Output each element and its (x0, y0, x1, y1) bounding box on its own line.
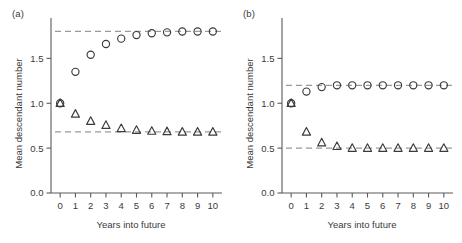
data-point-triangle (163, 127, 171, 135)
x-tick-label: 9 (195, 200, 200, 211)
data-point-triangle (440, 144, 448, 152)
x-tick-label: 8 (180, 200, 185, 211)
y-tick-label: 1.5 (261, 53, 274, 64)
x-tick-label: 1 (304, 200, 309, 211)
data-point-triangle (209, 128, 217, 136)
data-point-circle (318, 84, 325, 91)
data-point-triangle (302, 128, 310, 136)
panel-b-plot: 0.00.51.01.5012345678910 (231, 0, 462, 243)
data-point-triangle (148, 127, 156, 135)
data-point-triangle (87, 117, 95, 125)
x-tick-label: 0 (58, 200, 63, 211)
data-point-triangle (117, 124, 125, 132)
data-point-triangle (71, 110, 79, 118)
data-point-circle (133, 31, 140, 38)
data-point-circle (118, 35, 125, 42)
x-tick-label: 3 (103, 200, 108, 211)
data-point-triangle (379, 144, 387, 152)
data-point-triangle (56, 99, 64, 107)
figure-root: (a) Mean descendant number Years into fu… (0, 0, 462, 243)
x-tick-label: 10 (208, 200, 219, 211)
x-tick-label: 8 (411, 200, 416, 211)
panel-a: (a) Mean descendant number Years into fu… (0, 0, 231, 243)
x-tick-label: 7 (164, 200, 169, 211)
data-point-triangle (348, 144, 356, 152)
x-tick-label: 5 (365, 200, 370, 211)
panel-a-plot: 0.00.51.01.5012345678910 (0, 0, 231, 243)
x-tick-label: 1 (73, 200, 78, 211)
y-tick-label: 1.5 (30, 53, 43, 64)
x-tick-label: 4 (119, 200, 124, 211)
data-point-triangle (394, 144, 402, 152)
data-point-circle (303, 88, 310, 95)
y-tick-label: 0.5 (30, 143, 43, 154)
x-tick-label: 2 (88, 200, 93, 211)
y-tick-label: 1.0 (261, 98, 274, 109)
x-tick-label: 6 (149, 200, 154, 211)
data-point-triangle (409, 144, 417, 152)
y-tick-label: 0.0 (30, 187, 43, 198)
panel-b: (b) Mean descendant number Years into fu… (231, 0, 462, 243)
y-tick-label: 1.0 (30, 98, 43, 109)
data-point-circle (102, 40, 109, 47)
data-point-triangle (425, 144, 433, 152)
data-point-triangle (318, 138, 326, 146)
data-point-triangle (194, 128, 202, 136)
data-point-triangle (287, 99, 295, 107)
x-tick-label: 7 (395, 200, 400, 211)
data-point-triangle (363, 144, 371, 152)
x-tick-label: 2 (319, 200, 324, 211)
data-point-circle (163, 29, 170, 36)
data-point-circle (148, 30, 155, 37)
x-tick-label: 10 (439, 200, 450, 211)
x-tick-label: 9 (426, 200, 431, 211)
x-tick-label: 4 (350, 200, 355, 211)
y-tick-label: 0.5 (261, 143, 274, 154)
data-point-triangle (102, 121, 110, 129)
x-tick-label: 5 (134, 200, 139, 211)
data-point-triangle (178, 128, 186, 136)
x-tick-label: 6 (380, 200, 385, 211)
y-tick-label: 0.0 (261, 187, 274, 198)
data-point-circle (87, 51, 94, 58)
x-tick-label: 3 (334, 200, 339, 211)
data-point-circle (72, 68, 79, 75)
x-tick-label: 0 (289, 200, 294, 211)
